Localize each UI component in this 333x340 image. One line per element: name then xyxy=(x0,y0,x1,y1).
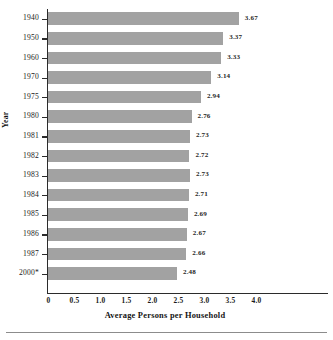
y-axis-tick-mark xyxy=(42,234,47,235)
bar xyxy=(48,208,188,221)
y-axis-tick-label: 1975 xyxy=(0,92,39,101)
y-axis-tick-label: 1950 xyxy=(0,33,39,42)
bar-value-label: 2.76 xyxy=(198,110,211,122)
y-axis-tick-mark xyxy=(42,38,47,39)
x-axis-tick-label: 2.5 xyxy=(174,296,184,305)
y-axis-tick-label: 1940 xyxy=(0,13,39,22)
y-axis-tick-mark xyxy=(42,136,47,137)
x-axis-line xyxy=(47,293,328,294)
bar-value-label: 3.33 xyxy=(227,51,240,63)
y-axis-tick-label: 1980 xyxy=(0,111,39,120)
bar xyxy=(48,52,221,65)
x-axis-title: Average Persons per Household xyxy=(48,311,282,320)
y-axis-tick-label: 2000* xyxy=(0,268,39,277)
y-axis-tick-mark xyxy=(42,78,47,79)
x-axis-tick-label: 0.5 xyxy=(70,296,80,305)
x-axis-tick-label: 1.5 xyxy=(122,296,132,305)
bar-value-label: 2.94 xyxy=(207,90,220,102)
bar xyxy=(48,130,190,143)
bar xyxy=(48,71,211,84)
bar-value-label: 3.37 xyxy=(229,31,242,43)
x-axis-tick-label: 1.0 xyxy=(96,296,106,305)
bar-value-label: 3.14 xyxy=(217,70,230,82)
y-axis-tick-mark xyxy=(42,19,47,20)
bar-value-label: 2.66 xyxy=(192,247,205,259)
y-axis-tick-label: 1960 xyxy=(0,53,39,62)
y-axis-tick-mark xyxy=(42,97,47,98)
bar xyxy=(48,150,189,163)
y-axis-tick-mark xyxy=(42,58,47,59)
y-axis-tick-label: 1983 xyxy=(0,170,39,179)
y-axis-tick-mark xyxy=(42,195,47,196)
bar xyxy=(48,267,177,280)
x-axis-tick-label: 4.0 xyxy=(252,296,262,305)
bar xyxy=(48,12,239,25)
bar-value-label: 2.69 xyxy=(194,208,207,220)
x-axis-tick-label: 3.0 xyxy=(200,296,210,305)
bar xyxy=(48,189,189,202)
bar xyxy=(48,91,201,104)
y-axis-tick-label: 1981 xyxy=(0,131,39,140)
x-axis-tick-label: 3.5 xyxy=(226,296,236,305)
bar-value-label: 2.67 xyxy=(193,227,206,239)
y-axis-tick-label: 1982 xyxy=(0,151,39,160)
x-axis-tick-label: 2.0 xyxy=(148,296,158,305)
bar-value-label: 2.73 xyxy=(196,129,209,141)
bar xyxy=(48,248,186,261)
y-axis-tick-label: 1987 xyxy=(0,249,39,258)
y-axis-tick-label: 1984 xyxy=(0,190,39,199)
bar-value-label: 2.72 xyxy=(195,149,208,161)
bar-value-label: 3.67 xyxy=(245,12,258,24)
bar-value-label: 2.71 xyxy=(195,188,208,200)
household-size-bar-chart: Year 3.673.373.333.142.942.762.732.722.7… xyxy=(0,0,333,340)
x-axis-tick-label: 0 xyxy=(47,296,51,305)
bottom-divider xyxy=(6,332,327,333)
y-axis-tick-mark xyxy=(42,176,47,177)
y-axis-tick-mark xyxy=(42,117,47,118)
y-axis-tick-label: 1970 xyxy=(0,72,39,81)
y-axis-tick-label: 1985 xyxy=(0,209,39,218)
bar xyxy=(48,169,190,182)
bar-value-label: 2.48 xyxy=(183,266,196,278)
bar xyxy=(48,32,223,45)
bar-value-label: 2.73 xyxy=(196,168,209,180)
plot-area: 3.673.373.333.142.942.762.732.722.732.71… xyxy=(48,9,328,292)
y-axis-tick-mark xyxy=(42,215,47,216)
y-axis-tick-mark xyxy=(42,274,47,275)
y-axis-tick-mark xyxy=(42,254,47,255)
bar xyxy=(48,228,187,241)
y-axis-tick-label: 1986 xyxy=(0,229,39,238)
bar xyxy=(48,110,192,123)
y-axis-tick-mark xyxy=(42,156,47,157)
